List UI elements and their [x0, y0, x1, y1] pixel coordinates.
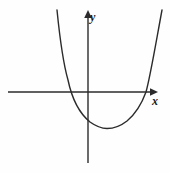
graph-canvas: [0, 0, 170, 173]
parabola-curve: [57, 10, 162, 129]
y-axis-label: y: [90, 11, 95, 23]
parabola-figure: y x: [0, 0, 170, 173]
x-axis-label: x: [152, 95, 158, 107]
